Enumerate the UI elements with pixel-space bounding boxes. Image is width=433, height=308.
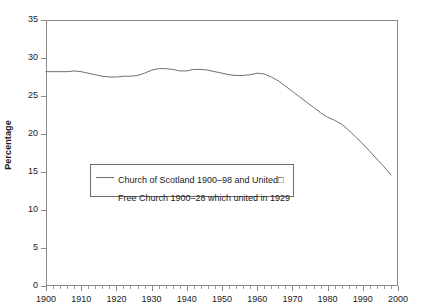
chart-legend: Church of Scotland 1900–98 and United□ F… bbox=[90, 164, 294, 197]
x-tick-minor bbox=[102, 286, 103, 289]
x-tick-minor bbox=[60, 286, 61, 289]
x-tick-minor bbox=[130, 286, 131, 289]
x-tick-label: 1970 bbox=[272, 294, 312, 304]
y-tick-label: 25 bbox=[0, 91, 38, 100]
x-tick-minor bbox=[250, 286, 251, 289]
x-tick-minor bbox=[236, 286, 237, 289]
x-tick-minor bbox=[306, 286, 307, 289]
y-axis-ticks: 05101520253035 bbox=[0, 0, 46, 308]
x-tick-major bbox=[398, 286, 399, 291]
x-tick-major bbox=[116, 286, 117, 291]
x-tick-major bbox=[46, 286, 47, 291]
x-tick-major bbox=[152, 286, 153, 291]
x-tick-minor bbox=[264, 286, 265, 289]
y-tick-label: 5 bbox=[0, 243, 38, 252]
x-tick-minor bbox=[145, 286, 146, 289]
y-tick-label: 35 bbox=[0, 15, 38, 24]
x-tick-label: 2000 bbox=[378, 294, 418, 304]
y-tick-label: 20 bbox=[0, 129, 38, 138]
x-tick-minor bbox=[384, 286, 385, 289]
x-tick-major bbox=[81, 286, 82, 291]
x-tick-minor bbox=[53, 286, 54, 289]
x-tick-minor bbox=[285, 286, 286, 289]
x-tick-minor bbox=[391, 286, 392, 289]
x-tick-minor bbox=[123, 286, 124, 289]
legend-line-swatch-icon bbox=[96, 173, 114, 182]
line-chart-figure: Percentage 05101520253035 19001910192019… bbox=[0, 0, 433, 308]
x-tick-label: 1910 bbox=[61, 294, 101, 304]
x-tick-minor bbox=[377, 286, 378, 289]
x-tick-minor bbox=[201, 286, 202, 289]
x-tick-label: 1960 bbox=[237, 294, 277, 304]
x-tick-label: 1980 bbox=[308, 294, 348, 304]
x-tick-minor bbox=[74, 286, 75, 289]
x-tick-label: 1930 bbox=[132, 294, 172, 304]
legend-entry: Church of Scotland 1900–98 and United□ F… bbox=[96, 169, 288, 205]
x-tick-minor bbox=[166, 286, 167, 289]
x-tick-major bbox=[222, 286, 223, 291]
x-tick-minor bbox=[349, 286, 350, 289]
y-tick-label: 10 bbox=[0, 205, 38, 214]
x-tick-minor bbox=[208, 286, 209, 289]
x-tick-major bbox=[257, 286, 258, 291]
y-tick-label: 30 bbox=[0, 53, 38, 62]
x-tick-major bbox=[292, 286, 293, 291]
legend-text-block: Church of Scotland 1900–98 and United□ F… bbox=[118, 169, 290, 205]
x-tick-minor bbox=[173, 286, 174, 289]
x-axis-ticks: 1900191019201930194019501960197019801990… bbox=[0, 286, 433, 308]
x-tick-major bbox=[363, 286, 364, 291]
x-tick-minor bbox=[271, 286, 272, 289]
x-tick-minor bbox=[109, 286, 110, 289]
x-tick-label: 1990 bbox=[343, 294, 383, 304]
x-tick-label: 1920 bbox=[96, 294, 136, 304]
x-tick-minor bbox=[138, 286, 139, 289]
plot-series-canvas bbox=[46, 20, 398, 286]
x-tick-minor bbox=[88, 286, 89, 289]
x-tick-minor bbox=[356, 286, 357, 289]
x-tick-minor bbox=[229, 286, 230, 289]
series-line-church-of-scotland bbox=[46, 69, 391, 175]
y-tick-label: 15 bbox=[0, 167, 38, 176]
legend-label-line-2: Free Church 1900–28 which united in 1929 bbox=[118, 193, 290, 203]
x-tick-minor bbox=[95, 286, 96, 289]
x-tick-minor bbox=[67, 286, 68, 289]
x-tick-minor bbox=[278, 286, 279, 289]
x-tick-label: 1940 bbox=[167, 294, 207, 304]
x-tick-label: 1900 bbox=[26, 294, 66, 304]
x-tick-minor bbox=[299, 286, 300, 289]
x-tick-major bbox=[328, 286, 329, 291]
x-tick-minor bbox=[342, 286, 343, 289]
x-tick-minor bbox=[314, 286, 315, 289]
x-tick-minor bbox=[194, 286, 195, 289]
x-tick-minor bbox=[335, 286, 336, 289]
x-tick-minor bbox=[159, 286, 160, 289]
legend-label-line-1: Church of Scotland 1900–98 and United□ bbox=[118, 175, 284, 185]
x-tick-minor bbox=[321, 286, 322, 289]
x-tick-label: 1950 bbox=[202, 294, 242, 304]
x-tick-minor bbox=[180, 286, 181, 289]
x-tick-minor bbox=[370, 286, 371, 289]
x-tick-minor bbox=[215, 286, 216, 289]
x-tick-major bbox=[187, 286, 188, 291]
x-tick-minor bbox=[243, 286, 244, 289]
